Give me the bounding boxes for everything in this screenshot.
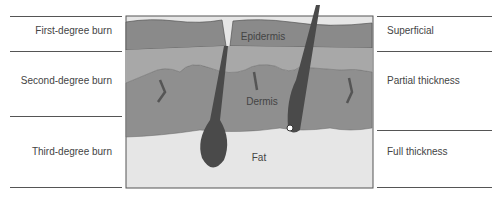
- skin-cross-section: Epidermis Dermis Fat: [0, 0, 500, 199]
- fat-label: Fat: [252, 152, 267, 163]
- dermis-label: Dermis: [246, 96, 278, 107]
- epidermis-label: Epidermis: [241, 31, 285, 42]
